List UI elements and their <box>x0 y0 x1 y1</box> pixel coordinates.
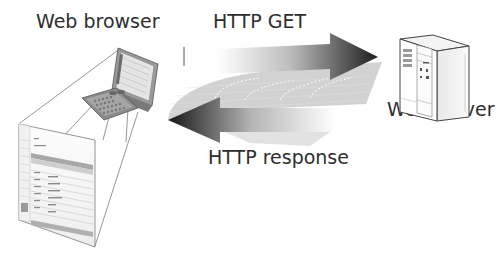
handheld-pda-icon <box>82 48 158 120</box>
diagram-canvas <box>0 0 497 260</box>
browser-screen-panel <box>19 124 95 247</box>
tower-server-icon <box>400 35 469 121</box>
